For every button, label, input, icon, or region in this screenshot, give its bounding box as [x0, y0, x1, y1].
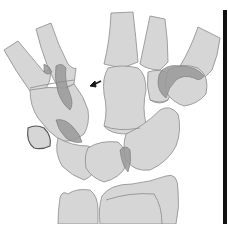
- wrist-bones-diagram: [0, 0, 228, 224]
- arrow-head-icon: [90, 81, 96, 87]
- ulna: [58, 190, 98, 225]
- metacarpal-3: [104, 12, 138, 68]
- frame-edge-bar: [223, 10, 227, 224]
- metacarpal-2: [140, 16, 168, 70]
- forearm-bones: [58, 175, 179, 224]
- lunate: [85, 142, 126, 182]
- arrow-annotation: [90, 81, 101, 87]
- capitate: [104, 66, 147, 134]
- radius: [99, 175, 178, 224]
